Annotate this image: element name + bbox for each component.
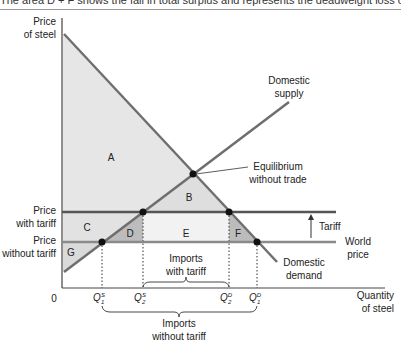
imports-with-tariff-brace bbox=[143, 277, 229, 287]
supply-label-line2: supply bbox=[275, 88, 304, 99]
q2s-point bbox=[140, 209, 147, 216]
price-with-tariff-line2: with tariff bbox=[15, 218, 56, 229]
q1s-label: QS1 bbox=[93, 292, 105, 305]
world-price-label-line1: World bbox=[345, 236, 371, 247]
q2d-label: QD2 bbox=[220, 292, 233, 305]
imports-with-tariff-line2: with tariff bbox=[165, 266, 206, 277]
area-a-label: A bbox=[108, 152, 115, 163]
area-b-label: B bbox=[186, 192, 193, 203]
world-price-label-line2: price bbox=[347, 249, 369, 260]
price-without-tariff-line1: Price bbox=[33, 235, 56, 246]
imports-without-tariff-brace bbox=[102, 306, 257, 317]
area-d-label: D bbox=[126, 228, 133, 239]
q1d-point bbox=[254, 239, 261, 246]
supply-label-line1: Domestic bbox=[268, 75, 310, 86]
y-axis-label-line1: Price bbox=[33, 16, 56, 27]
area-e-label: E bbox=[183, 228, 190, 239]
tariff-diagram: Price of steel Quantity of steel 0 Price… bbox=[0, 0, 401, 348]
area-c-label: C bbox=[83, 222, 90, 233]
area-f-label: F bbox=[235, 228, 241, 239]
imports-without-tariff-line2: without tariff bbox=[151, 331, 206, 342]
imports-without-tariff-line1: Imports bbox=[162, 318, 195, 329]
y-axis-label-line2: of steel bbox=[24, 29, 56, 40]
q1d-label: QD1 bbox=[249, 292, 262, 305]
imports-with-tariff-line1: Imports bbox=[169, 253, 202, 264]
equilibrium-label-line2: without trade bbox=[248, 174, 307, 185]
price-with-tariff-line1: Price bbox=[33, 205, 56, 216]
equilibrium-label-line1: Equilibrium bbox=[253, 161, 302, 172]
x-axis-label-line1: Quantity bbox=[357, 290, 394, 301]
q2d-point bbox=[226, 209, 233, 216]
origin-label: 0 bbox=[51, 293, 57, 304]
q2s-label: QS2 bbox=[134, 292, 146, 305]
x-axis-label-line2: of steel bbox=[362, 303, 394, 314]
q1s-point bbox=[99, 239, 106, 246]
equilibrium-point bbox=[190, 171, 197, 178]
price-without-tariff-line2: without tariff bbox=[1, 248, 56, 259]
tariff-label: Tariff bbox=[319, 221, 341, 232]
area-g-label: G bbox=[67, 247, 75, 258]
demand-label-line1: Domestic bbox=[283, 257, 325, 268]
demand-label-line2: demand bbox=[286, 270, 322, 281]
equilibrium-leader bbox=[196, 167, 248, 174]
tariff-arrowhead-icon bbox=[308, 214, 314, 220]
